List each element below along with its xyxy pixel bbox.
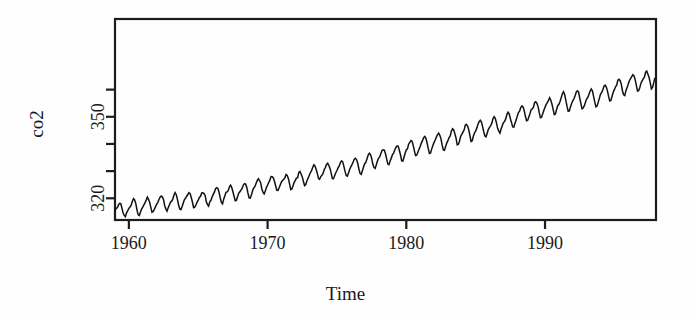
x-axis-tick-labels: 1960197019801990: [111, 233, 563, 253]
x-axis-title: Time: [0, 283, 691, 305]
y-axis-tick-label: 350: [88, 103, 108, 130]
y-axis-tick-labels: 320350: [88, 103, 108, 211]
x-axis-tick-label: 1990: [527, 233, 563, 253]
y-axis-title: co2: [26, 84, 48, 164]
co2-time-series-plot: 320350 1960197019801990: [0, 0, 691, 317]
x-axis-tick-label: 1970: [250, 233, 286, 253]
figure-canvas: 320350 1960197019801990 co2 Time: [0, 0, 691, 317]
x-axis-tick-label: 1960: [111, 233, 147, 253]
co2-series-line: [115, 71, 655, 217]
y-axis-tick-label: 320: [88, 185, 108, 212]
x-axis-ticks: [129, 220, 545, 229]
plot-frame: [115, 19, 656, 220]
x-axis-tick-label: 1980: [388, 233, 424, 253]
